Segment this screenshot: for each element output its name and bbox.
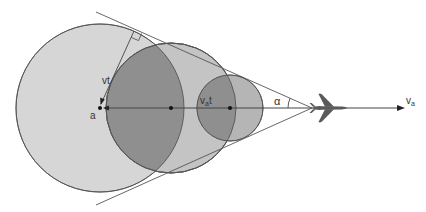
label-vat-tail: t	[209, 95, 212, 106]
center-point-mid	[169, 106, 173, 110]
mach-cone-diagram: vt a vat α va	[0, 0, 426, 212]
label-va: va	[406, 95, 415, 107]
label-a: a	[90, 110, 96, 121]
label-alpha: α	[274, 95, 281, 107]
alpha-angle-arc	[288, 98, 290, 108]
center-point-a	[98, 106, 102, 110]
label-va-sub: a	[411, 100, 415, 107]
velocity-arrowhead	[397, 105, 405, 111]
center-point-small	[228, 106, 232, 110]
airplane-icon	[310, 94, 348, 123]
label-vt: vt	[102, 75, 110, 86]
